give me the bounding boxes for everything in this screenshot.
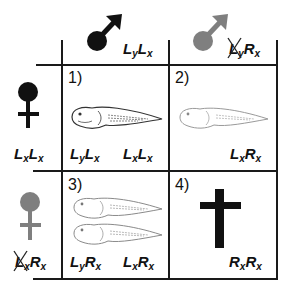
cell2-number: 2) [175,70,189,86]
struck-allele: Ly [229,41,244,59]
tadpole-icon [68,103,164,131]
cell4-number: 4) [175,177,189,193]
tadpole-faint-icon [70,220,164,246]
cell3-offspring-2: LxRx [123,254,154,272]
tadpole-faint-icon [176,104,270,130]
row1-genotype: LxLx [14,146,43,164]
grid-vline-mid [168,40,170,278]
grid-hline-top [36,64,278,66]
struck-allele: Lx [15,254,30,272]
cell1-number: 1) [68,70,82,86]
female-symbol-icon [16,80,42,130]
row2-genotype: Lx Rx [15,254,46,272]
female-symbol-gray-icon [18,190,44,242]
cell1-offspring-1: LyLx [70,146,99,164]
male-symbol-gray-icon [190,12,230,54]
cell3-offspring-1: LyRx [70,254,101,272]
cell4-offspring-1: RxRx [229,254,262,272]
cell1-offspring-2: LxLx [123,146,152,164]
cross-death-icon [200,189,242,249]
tadpole-faint-icon [70,194,164,220]
male-symbol-icon [84,12,124,54]
grid-hline-bottom [33,278,278,280]
strike-x-icon [227,37,243,59]
strike-x-icon [13,250,29,272]
header-col2-genotype: Ly Rx [229,41,260,59]
grid-vline-left [61,40,63,278]
grid-hline-mid [33,170,278,172]
grid-vline-right [276,40,278,278]
cell3-number: 3) [68,177,82,193]
header-col1-genotype: LyLx [123,41,152,59]
cell2-offspring-1: LxRx [230,146,261,164]
